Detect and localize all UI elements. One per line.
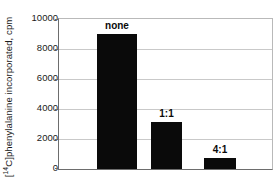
y-tick-label: 10000 — [14, 13, 58, 23]
bar-none — [97, 34, 137, 169]
bar-chart-figure: [14C]phenylalanine incorporated, cpm 100… — [0, 0, 280, 194]
gridline-6000 — [59, 79, 272, 80]
y-tick-label: 2000 — [14, 133, 58, 143]
y-tick-label: 8000 — [14, 43, 58, 53]
tickmark-6000 — [55, 79, 59, 80]
y-tick-label: 4000 — [14, 103, 58, 113]
y-axis-title-superscript: 14 — [1, 167, 8, 175]
bar-label-1-to-1: 1:1 — [151, 109, 182, 119]
bar-label-none: none — [97, 21, 137, 31]
y-tick-label: 6000 — [14, 73, 58, 83]
y-axis-title-rest: C]phenylalanine incorporated, cpm — [3, 17, 14, 167]
bar-4-to-1 — [204, 158, 236, 169]
y-axis-title-text: [14C]phenylalanine incorporated, cpm — [3, 17, 14, 178]
bar-1-to-1 — [151, 122, 182, 169]
gridline-8000 — [59, 49, 272, 50]
tickmark-2000 — [55, 139, 59, 140]
bar-label-4-to-1: 4:1 — [204, 145, 236, 155]
plot-area: none 1:1 4:1 — [58, 18, 273, 170]
tickmark-10000 — [55, 19, 59, 20]
tickmark-8000 — [55, 49, 59, 50]
y-tick-label: 0 — [14, 163, 58, 173]
tickmark-0 — [55, 168, 59, 169]
tickmark-4000 — [55, 109, 59, 110]
y-axis-tick-labels: 10000 8000 6000 4000 2000 0 — [14, 0, 58, 194]
